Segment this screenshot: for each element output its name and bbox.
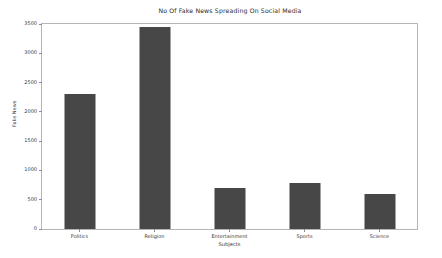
bar (214, 188, 245, 229)
x-tick-mark (229, 229, 230, 232)
bar (289, 183, 320, 229)
y-tick-label: 3000 (24, 49, 37, 55)
y-tick-label: 500 (27, 196, 37, 202)
y-tick-label: 1500 (24, 137, 37, 143)
bar (139, 27, 170, 229)
plot-area: 0500100015002000250030003500 PoliticsRel… (41, 23, 418, 230)
y-tick-label: 1000 (24, 166, 37, 172)
y-axis-label: Fake News (11, 101, 17, 127)
bar-slot (342, 24, 417, 229)
bar (364, 194, 395, 229)
bar (64, 94, 95, 229)
x-tick-label: Politics (40, 233, 120, 240)
x-tick-label: Sports (265, 233, 345, 240)
x-tick-label: Science (340, 233, 420, 240)
bar-slot (42, 24, 117, 229)
x-tick-label: Religion (115, 233, 195, 240)
x-axis-label: Subjects (41, 241, 418, 247)
x-tick-mark (79, 229, 80, 232)
bar-slot (117, 24, 192, 229)
x-tick-mark (154, 229, 155, 232)
x-tick-mark (379, 229, 380, 232)
x-tick-label: Entertainment (190, 233, 270, 240)
bar-series (42, 24, 417, 229)
bar-slot (192, 24, 267, 229)
y-tick-label: 3500 (24, 20, 37, 26)
y-tick-label: 2500 (24, 79, 37, 85)
chart-title: No Of Fake News Spreading On Social Medi… (41, 7, 419, 14)
y-tick-label: 0 (34, 225, 37, 231)
y-tick-label: 2000 (24, 108, 37, 114)
chart-figure: No Of Fake News Spreading On Social Medi… (0, 0, 442, 258)
bar-slot (267, 24, 342, 229)
x-tick-mark (304, 229, 305, 232)
